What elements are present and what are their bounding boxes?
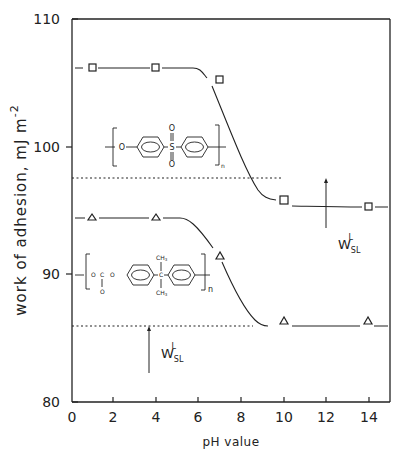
- y-tick-labels: 110 100 90 80: [33, 11, 60, 410]
- atom-label: n: [221, 162, 225, 169]
- x-axis-title: pH value: [202, 435, 259, 449]
- atom-label: O: [110, 271, 115, 278]
- polycarbonate-curve: [75, 218, 388, 326]
- wsl-annotation-lower: WSLL: [147, 326, 184, 373]
- x-tick-label: 4: [152, 409, 161, 425]
- x-tick-label: 8: [237, 409, 246, 425]
- square-marker: [89, 64, 96, 71]
- chart: 110 100 90 80 0 2 4 6 8 10 12 14 pH valu…: [0, 0, 402, 461]
- x-tick-label: 10: [275, 409, 293, 425]
- x-tick-labels: 0 2 4 6 8 10 12 14: [68, 409, 378, 425]
- atom-label: O: [169, 160, 175, 169]
- y-tick-label: 90: [42, 266, 60, 282]
- x-tick-label: 2: [109, 409, 118, 425]
- triangle-marker: [88, 214, 96, 220]
- y-tick-label: 80: [42, 394, 60, 410]
- right-bracket: [201, 254, 205, 290]
- arrow-up-icon: [324, 178, 328, 183]
- triangle-marker: [280, 317, 288, 324]
- right-bracket: [215, 125, 219, 165]
- atom-label: CH3: [156, 289, 168, 297]
- y-axis-title-text: work of adhesion, mJ m-2: [8, 104, 30, 315]
- triangle-marker: [152, 214, 160, 220]
- wsl-label: WSLL: [161, 342, 184, 364]
- wsl-label: WSLL: [338, 233, 361, 255]
- arrow-up-icon: [147, 326, 151, 331]
- square-marker: [216, 76, 223, 83]
- atom-label: O: [100, 288, 105, 295]
- atom-label: C: [100, 271, 104, 278]
- atom-label: CH3: [156, 254, 168, 262]
- atom-label: O: [169, 124, 175, 133]
- x-ticks: [113, 397, 369, 402]
- polysulfone-curve: [75, 68, 388, 207]
- atom-label: n: [208, 285, 213, 294]
- polysulfone-markers: [89, 64, 372, 210]
- atom-label: S: [169, 143, 174, 152]
- triangle-marker: [364, 317, 372, 324]
- atom-label: O: [91, 271, 96, 278]
- y-axis-title: work of adhesion, mJ m-2: [8, 104, 30, 315]
- y-tick-label: 110: [33, 11, 60, 27]
- atom-label: C: [159, 271, 163, 278]
- atom-label: O: [119, 143, 125, 152]
- square-marker: [365, 203, 372, 210]
- x-tick-label: 14: [360, 409, 378, 425]
- y-tick-label: 100: [33, 139, 60, 155]
- wsl-annotation-upper: WSLL: [324, 178, 361, 255]
- square-marker: [152, 64, 159, 71]
- x-tick-label: 12: [317, 409, 335, 425]
- x-tick-label: 6: [194, 409, 203, 425]
- triangle-marker: [216, 252, 224, 259]
- left-bracket: [86, 254, 90, 289]
- polysulfone-atoms: O S O O n: [119, 124, 225, 169]
- x-tick-label: 0: [68, 409, 77, 425]
- square-marker: [280, 196, 288, 204]
- plot-frame: [72, 19, 390, 402]
